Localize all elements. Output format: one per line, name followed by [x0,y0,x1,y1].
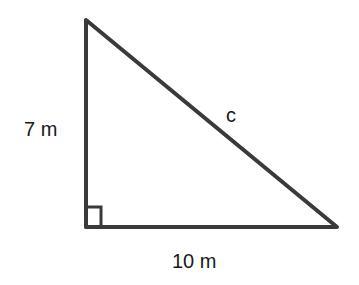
triangle [86,20,337,227]
right-angle-marker [86,207,101,227]
vertical-side-label: 7 m [24,118,57,141]
horizontal-side-label: 10 m [172,250,216,273]
right-triangle-figure [0,0,359,285]
hypotenuse-label: c [226,104,236,127]
